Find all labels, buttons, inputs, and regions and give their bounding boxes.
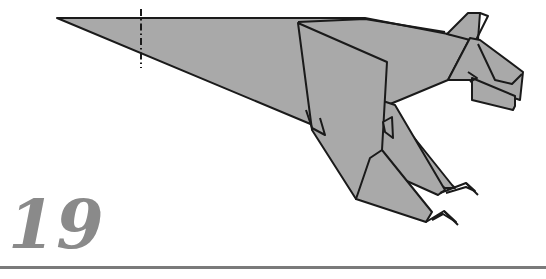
origami-model bbox=[57, 13, 523, 225]
step-number: 19 bbox=[8, 190, 105, 258]
ear bbox=[447, 13, 480, 40]
hind-claw-tip bbox=[444, 211, 458, 225]
front-claw-tip bbox=[466, 183, 478, 195]
tail-body-flap bbox=[57, 18, 470, 128]
bottom-rule bbox=[0, 266, 546, 269]
